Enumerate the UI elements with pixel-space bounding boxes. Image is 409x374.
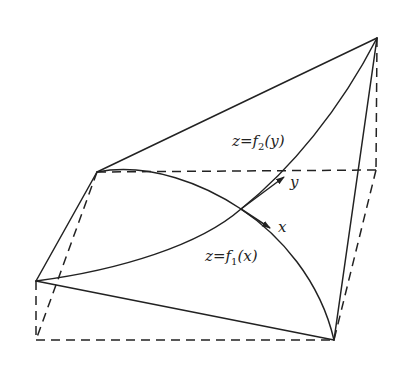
label-surface-f1: z=f1(x) <box>204 247 258 267</box>
label-axis-x: x <box>278 218 287 236</box>
edge-top-left-to-top-right <box>97 38 377 172</box>
label-surface-f2: z=f2(y) <box>231 132 285 152</box>
curve-f2 <box>36 38 377 281</box>
dashed-right-vertical <box>376 38 377 170</box>
y-axis-arrow <box>241 177 284 209</box>
dashed-top-left-to-bottom-left <box>36 172 97 340</box>
x-axis-arrow <box>241 209 270 228</box>
label-axis-y: y <box>289 173 299 191</box>
diagram-canvas: z=f2(y) z=f1(x) y x <box>0 0 409 374</box>
edge-left-to-bottom-right <box>36 281 334 340</box>
edge-top-left-to-left <box>36 172 97 281</box>
